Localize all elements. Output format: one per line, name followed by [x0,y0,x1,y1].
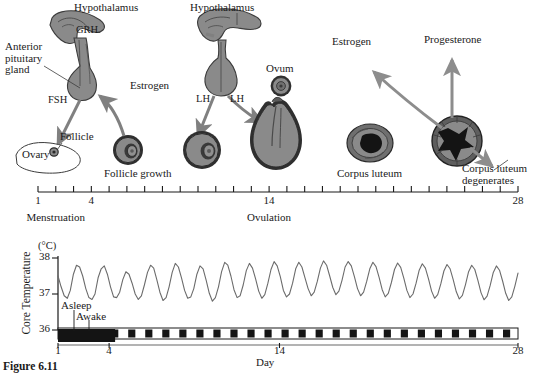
label-hypothalamus-left: Hypothalamus [74,2,138,14]
hypothalamus-right-illustration [197,9,261,96]
label-estrogen-right: Estrogen [332,36,371,48]
timeline-tick-1: 1 [28,195,48,207]
label-hypothalamus-right: Hypothalamus [190,2,254,14]
label-follicle: Follicle [60,131,94,143]
label-day-axis: Day [256,357,274,369]
cycle-timeline-axis [38,186,518,192]
timeline-tick-4: 4 [81,195,101,207]
label-ovum: Ovum [266,63,294,75]
label-ovary: Ovary [22,149,50,161]
timeline-tick-28: 28 [508,195,528,207]
label-awake: Awake [76,311,106,323]
phase-label-menstruation: Menstruation [16,212,96,224]
temperature-tick-36: 36 [30,323,50,335]
temperature-tick-38: 38 [30,251,50,263]
label-follicle-growth: Follicle growth [104,168,172,180]
label-grh: GRH [76,24,98,35]
phase-label-ovulation: Ovulation [229,212,309,224]
label-lh-right: LH [230,93,244,104]
follicle-stage-1-illustration [113,135,143,165]
day-tick-14: 14 [269,345,289,357]
label-estrogen-left: Estrogen [130,80,169,92]
temperature-tick-37: 37 [30,287,50,299]
label-corpus-luteum-degenerates: Corpus luteum degenerates [462,163,527,186]
label-corpus-luteum: Corpus luteum [337,168,402,180]
menstruation-band [58,329,115,342]
day-tick-28: 28 [508,345,528,357]
estrogen-left-arrow [100,96,124,136]
temperature-chart-axes [52,256,58,330]
day-tick-4: 4 [99,345,119,357]
label-anterior-pituitary-gland: Anterior pituitary gland [5,41,42,76]
timeline-tick-14: 14 [259,195,279,207]
follicle-stage-2-illustration [183,131,221,169]
label-progesterone: Progesterone [424,34,481,46]
core-temperature-line [58,261,518,301]
figure-caption: Figure 6.11 [3,360,58,372]
label-fsh: FSH [48,94,67,105]
ovulating-follicle-illustration [250,97,302,170]
corpus-luteum-degenerates-illustration [432,116,482,166]
sleep-wake-bar [58,328,518,345]
estrogen-right-arrow [374,72,442,128]
label-lh-left: LH [196,93,210,104]
corpus-luteum-illustration [347,124,393,162]
ovum-illustration [271,76,292,97]
day-tick-1: 1 [48,345,68,357]
